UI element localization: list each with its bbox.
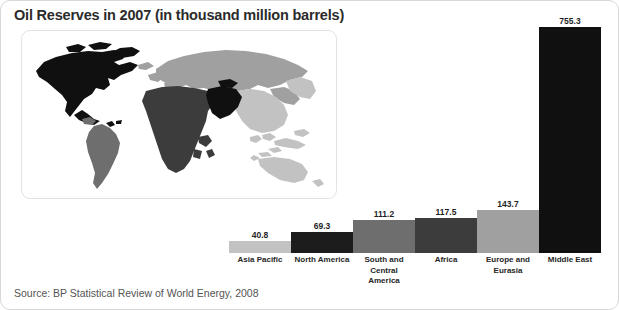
bar-rect	[353, 220, 415, 253]
map-region-africa	[142, 86, 218, 173]
bar-value-label: 40.8	[229, 230, 291, 240]
bar-chart: 40.869.3111.2117.5143.7755.3	[229, 15, 601, 253]
bar-category-label: Asia Pacific	[229, 255, 291, 287]
bar-column: 143.7	[477, 15, 539, 253]
bar-column: 69.3	[291, 15, 353, 253]
bar-value-label: 111.2	[353, 209, 415, 219]
bar-value-label: 755.3	[539, 16, 601, 26]
source-note: Source: BP Statistical Review of World E…	[14, 287, 259, 299]
bar-column: 111.2	[353, 15, 415, 253]
bar-rect	[415, 218, 477, 253]
bar-category-label: Europe andEurasia	[477, 255, 539, 287]
map-region-south-central-america	[82, 117, 120, 189]
bar-rect	[539, 27, 601, 253]
bar-column: 755.3	[539, 15, 601, 253]
bar-column: 117.5	[415, 15, 477, 253]
bar-value-label: 117.5	[415, 207, 477, 217]
bar-category-label: North America	[291, 255, 353, 287]
bar-value-label: 69.3	[291, 221, 353, 231]
bar-chart-category-labels: Asia PacificNorth AmericaSouth andCentra…	[229, 255, 601, 287]
bar-rect	[477, 210, 539, 253]
bar-category-label: Africa	[415, 255, 477, 287]
bar-column: 40.8	[229, 15, 291, 253]
map-region-north-america	[36, 42, 140, 127]
bar-rect	[291, 232, 353, 253]
bar-value-label: 143.7	[477, 199, 539, 209]
figure-root: Oil Reserves in 2007 (in thousand millio…	[0, 0, 619, 310]
bar-category-label: South andCentral America	[353, 255, 415, 287]
bar-chart-bars: 40.869.3111.2117.5143.7755.3	[229, 15, 601, 253]
bar-rect	[229, 241, 291, 253]
bar-category-label: Middle East	[539, 255, 601, 287]
